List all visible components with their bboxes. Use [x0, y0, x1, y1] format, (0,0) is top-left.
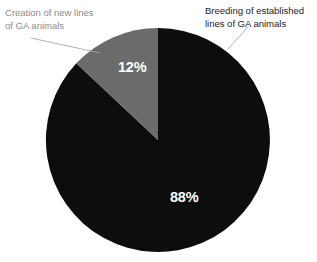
- pie-value-creation-new-lines: 12%: [118, 60, 146, 75]
- pie-label-breeding-established: Breeding of established lines of GA anim…: [205, 4, 317, 30]
- pie-chart-figure: Creation of new lines of GA animals Bree…: [0, 0, 317, 262]
- pie-label-creation-new-lines: Creation of new lines of GA animals: [5, 6, 137, 32]
- leader-line-left: [31, 38, 100, 53]
- pie-chart-svg: [0, 0, 317, 262]
- pie-value-breeding-established: 88%: [170, 190, 198, 205]
